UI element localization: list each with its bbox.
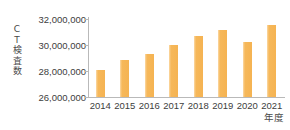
bar-slot [88, 19, 113, 97]
bar-series [88, 19, 284, 97]
bar-2014[interactable] [96, 70, 105, 97]
bar-slot [211, 19, 236, 97]
bar-slot [113, 19, 138, 97]
x-tick-label-2021: 2021 [260, 99, 285, 112]
y-tick-label-26000000: 26,000,000 [24, 92, 86, 103]
x-axis-line [88, 97, 285, 98]
bar-2020[interactable] [243, 42, 252, 97]
bar-slot [186, 19, 211, 97]
bar-slot [137, 19, 162, 97]
y-tick-label-30000000: 30,000,000 [24, 40, 86, 51]
x-tick-label-2015: 2015 [113, 99, 138, 112]
y-axis-tick-labels: 32,000,000 30,000,000 28,000,000 26,000,… [24, 0, 86, 130]
x-tick-label-2019: 2019 [211, 99, 236, 112]
ct-exam-count-bar-chart: C T 検 査 数 32,000,000 30,000,000 28,000,0… [0, 0, 290, 130]
bar-slot [162, 19, 187, 97]
bar-2018[interactable] [194, 36, 203, 97]
bar-2019[interactable] [218, 30, 227, 97]
x-tick-label-2020: 2020 [235, 99, 260, 112]
y-tick-label-32000000: 32,000,000 [24, 14, 86, 25]
bar-slot [260, 19, 285, 97]
x-axis-tick-labels: 20142015201620172018201920202021 [88, 99, 284, 112]
bar-2021[interactable] [267, 25, 276, 97]
x-tick-label-2017: 2017 [162, 99, 187, 112]
x-tick-label-2014: 2014 [88, 99, 113, 112]
x-axis-title: 年度 [264, 112, 284, 124]
y-axis-title: C T 検 査 数 [10, 24, 24, 77]
bar-2016[interactable] [145, 54, 154, 97]
x-tick-label-2016: 2016 [137, 99, 162, 112]
bar-2017[interactable] [169, 45, 178, 97]
plot-area [88, 19, 284, 97]
bar-slot [235, 19, 260, 97]
bar-2015[interactable] [120, 60, 129, 97]
x-tick-label-2018: 2018 [186, 99, 211, 112]
y-tick-label-28000000: 28,000,000 [24, 66, 86, 77]
